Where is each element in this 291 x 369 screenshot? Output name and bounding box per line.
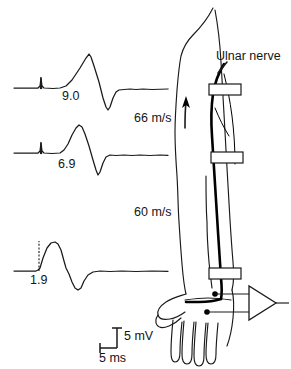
latency-label-axilla: 9.0 (62, 90, 79, 103)
ulnar-nerve-label: Ulnar nerve (216, 50, 281, 63)
ulnar-nerve-conduction-figure: 9.0 6.9 1.9 66 m/s 60 m/s Ulnar nerve 5 … (0, 0, 291, 369)
hand-hypothenar-edge (227, 290, 234, 346)
latency-label-above-elbow: 6.9 (58, 158, 75, 171)
conduction-arrow-shaft (185, 103, 186, 128)
conduction-direction-arrow (182, 96, 190, 128)
velocity-label-lower-segment: 60 m/s (134, 206, 172, 219)
ulnar-nerve-label-pointer (218, 62, 227, 73)
velocity-label-upper-segment: 66 m/s (134, 112, 172, 125)
calibration-scale-bar (100, 328, 122, 353)
waveform-above-elbow-path (14, 125, 168, 175)
ulnar-nerve-branch-distal (215, 108, 229, 136)
scale-label-time: 5 ms (99, 352, 126, 365)
finger-index (206, 323, 218, 364)
trace-axilla (14, 54, 168, 110)
scale-label-amplitude: 5 mV (124, 330, 153, 343)
stimulator-wrist[interactable] (209, 268, 241, 279)
waveform-axilla-path (14, 54, 168, 110)
torso-outline (175, 8, 213, 294)
finger-little (171, 320, 182, 362)
trace-above-elbow (14, 125, 168, 175)
stimulus-artifact-axilla (41, 78, 42, 89)
recording-setup (204, 286, 289, 320)
stimulator-axilla-box[interactable] (209, 84, 241, 95)
stimulus-artifact-above-elbow (41, 143, 42, 154)
ulnar-nerve-path (211, 64, 224, 299)
stimulator-axilla[interactable] (209, 84, 241, 95)
hand-wrist-crease (185, 298, 231, 300)
hand-palm-outline (158, 294, 186, 319)
finger-ring (182, 321, 194, 364)
amplifier-icon (249, 286, 276, 320)
stimulator-wrist-box[interactable] (209, 268, 241, 279)
finger-middle (194, 322, 206, 366)
latency-label-wrist: 1.9 (30, 274, 47, 287)
stimulator-above-elbow-box[interactable] (211, 152, 243, 163)
stimulator-above-elbow[interactable] (211, 152, 243, 163)
